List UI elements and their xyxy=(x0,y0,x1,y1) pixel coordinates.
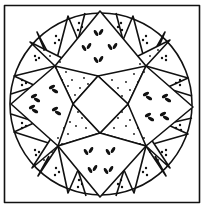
star-point-n xyxy=(55,11,146,76)
quilt-block-illustration xyxy=(0,0,203,207)
